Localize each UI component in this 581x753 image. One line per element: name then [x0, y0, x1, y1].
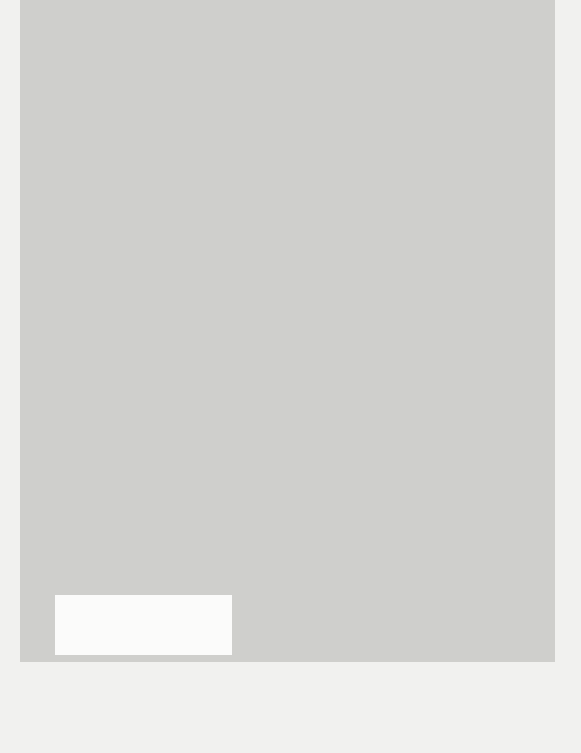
innovation-attributes-box [55, 595, 232, 655]
gray-background-panel [20, 0, 555, 662]
diagram-stage [0, 0, 581, 753]
